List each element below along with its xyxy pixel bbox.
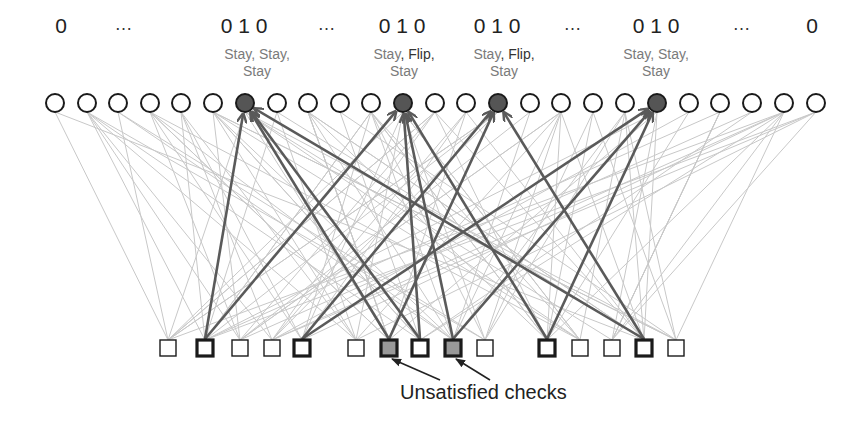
variable-node <box>204 94 222 112</box>
variable-node <box>552 94 570 112</box>
variable-node <box>78 94 96 112</box>
bit-group: 0 1 0 <box>221 14 268 38</box>
variable-node <box>362 94 380 112</box>
bit-group: 0 1 0 <box>379 14 426 38</box>
variable-node <box>268 94 286 112</box>
caption-arrows <box>392 359 490 380</box>
check-node <box>604 340 620 356</box>
variable-node <box>46 94 64 112</box>
bit-group: 0 <box>806 14 818 38</box>
variable-node-highlighted <box>236 94 254 112</box>
check-node <box>572 340 588 356</box>
check-node <box>636 340 652 356</box>
check-node-unsatisfied <box>445 340 461 356</box>
check-node <box>160 340 176 356</box>
bit-group: 0 1 0 <box>474 14 521 38</box>
ellipsis: … <box>318 14 337 35</box>
check-node <box>412 340 428 356</box>
variable-node <box>331 94 349 112</box>
message-label: Stay, Stay,Stay <box>224 46 290 80</box>
variable-node <box>172 94 190 112</box>
passive-edges <box>55 112 816 340</box>
variable-node <box>616 94 634 112</box>
check-node-unsatisfied <box>381 340 397 356</box>
ellipsis: … <box>115 14 134 35</box>
bit-group: 0 <box>55 14 67 38</box>
check-node <box>668 340 684 356</box>
variable-node <box>521 94 539 112</box>
variable-node <box>711 94 729 112</box>
check-node <box>232 340 248 356</box>
check-node <box>477 340 493 356</box>
variable-node-highlighted <box>394 94 412 112</box>
check-node <box>294 340 310 356</box>
ellipsis: … <box>733 14 752 35</box>
check-nodes <box>160 340 684 356</box>
check-node <box>539 340 555 356</box>
message-label: Stay, Flip,Stay <box>373 46 434 80</box>
check-node <box>348 340 364 356</box>
variable-node <box>426 94 444 112</box>
variable-node <box>141 94 159 112</box>
ellipsis: … <box>564 14 583 35</box>
unsatisfied-checks-label: Unsatisfied checks <box>400 381 567 404</box>
message-label: Stay, Flip,Stay <box>473 46 534 80</box>
variable-node <box>584 94 602 112</box>
variable-node <box>299 94 317 112</box>
variable-nodes <box>46 94 825 112</box>
variable-node <box>743 94 761 112</box>
check-node <box>264 340 280 356</box>
variable-node <box>680 94 698 112</box>
variable-node <box>807 94 825 112</box>
variable-node <box>457 94 475 112</box>
variable-node-highlighted <box>648 94 666 112</box>
check-node <box>197 340 213 356</box>
variable-node <box>109 94 127 112</box>
message-label: Stay, Stay,Stay <box>623 46 689 80</box>
variable-node-highlighted <box>489 94 507 112</box>
bit-group: 0 1 0 <box>633 14 680 38</box>
variable-node <box>775 94 793 112</box>
